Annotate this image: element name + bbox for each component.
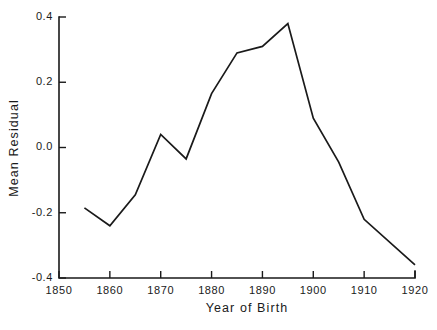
- x-tick-label: 1890: [249, 284, 276, 296]
- y-tick-label: -0.2: [32, 206, 53, 218]
- y-tick-label: -0.4: [32, 271, 53, 283]
- axes-group: [59, 17, 415, 278]
- chart-svg: -0.4-0.20.00.20.4 1850186018701880189019…: [0, 0, 437, 330]
- x-axis-tick-labels: 18501860187018801890190019101920: [46, 284, 429, 296]
- chart-figure: -0.4-0.20.00.20.4 1850186018701880189019…: [0, 0, 437, 330]
- y-axis-title: Mean Residual: [7, 99, 21, 197]
- x-tick-label: 1850: [46, 284, 73, 296]
- y-tick-label: 0.2: [36, 75, 53, 87]
- y-tick-marks: [59, 17, 66, 278]
- x-tick-label: 1860: [96, 284, 123, 296]
- x-tick-label: 1900: [300, 284, 327, 296]
- x-tick-label: 1870: [147, 284, 174, 296]
- y-tick-label: 0.0: [36, 140, 53, 152]
- x-axis-title: Year of Birth: [206, 301, 289, 315]
- x-tick-marks: [59, 271, 415, 278]
- data-line-mean-residual: [84, 24, 415, 265]
- y-tick-label: 0.4: [36, 10, 53, 22]
- axis-spines: [59, 17, 415, 278]
- x-tick-label: 1920: [402, 284, 429, 296]
- data-series-group: [84, 24, 415, 265]
- y-axis-tick-labels: -0.4-0.20.00.20.4: [32, 10, 53, 283]
- x-tick-label: 1910: [351, 284, 378, 296]
- x-tick-label: 1880: [198, 284, 225, 296]
